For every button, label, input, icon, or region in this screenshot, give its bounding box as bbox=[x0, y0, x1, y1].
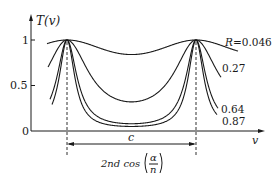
fsr-denominator: n bbox=[150, 164, 156, 175]
fsr-prefix: 2nd cos bbox=[100, 158, 140, 169]
arrow-right-icon bbox=[189, 142, 196, 146]
series-label-r3: 0.87 bbox=[222, 115, 245, 127]
paren-right bbox=[160, 153, 162, 173]
y-axis-arrow-icon bbox=[29, 14, 33, 21]
y-axis-label: T(v) bbox=[36, 14, 60, 28]
series-label-r1: 0.27 bbox=[222, 62, 245, 74]
series-label-r0: R=0.046 bbox=[224, 36, 272, 48]
tick-label-1: 1 bbox=[22, 34, 29, 47]
spacing-label-c: c bbox=[128, 131, 134, 144]
tick-label-0: 0 bbox=[22, 125, 29, 138]
fsr-numerator: α bbox=[150, 152, 157, 163]
arrow-left-icon bbox=[67, 142, 74, 146]
curve-0-87 bbox=[52, 40, 217, 126]
x-axis-label: v bbox=[252, 134, 259, 147]
paren-left bbox=[145, 153, 147, 173]
tick-label-0-5: 0.5 bbox=[10, 79, 28, 92]
curve-0-64 bbox=[50, 40, 218, 124]
x-axis-arrow-icon bbox=[258, 129, 265, 133]
series-label-r2: 0.64 bbox=[221, 103, 245, 115]
curves bbox=[47, 40, 238, 126]
fsr-expression: 2nd cos α n bbox=[100, 152, 162, 175]
transmission-chart: T(v) v 1 0.5 0 c 2nd cos α n R=0.046 0.2… bbox=[0, 0, 280, 186]
